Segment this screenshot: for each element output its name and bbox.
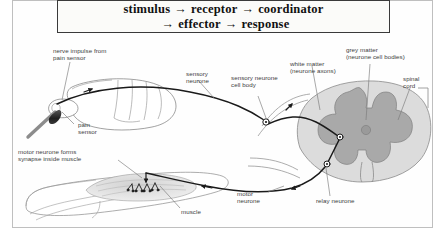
- reflex-arc-artwork: [0, 0, 447, 238]
- label-white-matter: white matter (neurone axons): [290, 60, 336, 75]
- label-relay-neurone: relay neurone: [316, 197, 355, 204]
- label-nerve-impulse: nerve impulse from pain sensor: [53, 47, 107, 62]
- relay-synapse-upper-dot: [339, 136, 341, 138]
- hand-illustration: [49, 79, 176, 130]
- label-sensory-cell-body: sensory neurone cell body: [231, 74, 278, 89]
- label-motor-synapse: motor neurone forms synapse inside muscl…: [18, 148, 81, 163]
- relay-synapse-lower-dot: [326, 163, 328, 165]
- central-canal: [361, 125, 370, 134]
- impulse-arrow-into-cord: [286, 104, 292, 110]
- label-spinal-cord: spinal cord: [403, 75, 419, 90]
- label-motor-neurone: motor neurone: [237, 190, 260, 205]
- label-pain-sensor: pain sensor: [78, 121, 97, 136]
- reflex-arc-figure: stimulus→receptor→coordinator →effector→…: [0, 0, 447, 238]
- lit-match-illustration: [28, 110, 61, 137]
- label-sensory-neurone: sensory neurone: [186, 70, 209, 85]
- leader-sensory-cell-body: [258, 96, 266, 118]
- sensory-cell-body-nucleus: [265, 121, 267, 123]
- spinal-cord-cross-section: [248, 81, 431, 182]
- label-muscle: muscle: [181, 208, 201, 215]
- label-grey-matter: grey matter (neurone cell bodies): [346, 46, 405, 61]
- ventral-root-sheath: [250, 158, 298, 170]
- ventral-root-sheath-outer: [248, 166, 300, 178]
